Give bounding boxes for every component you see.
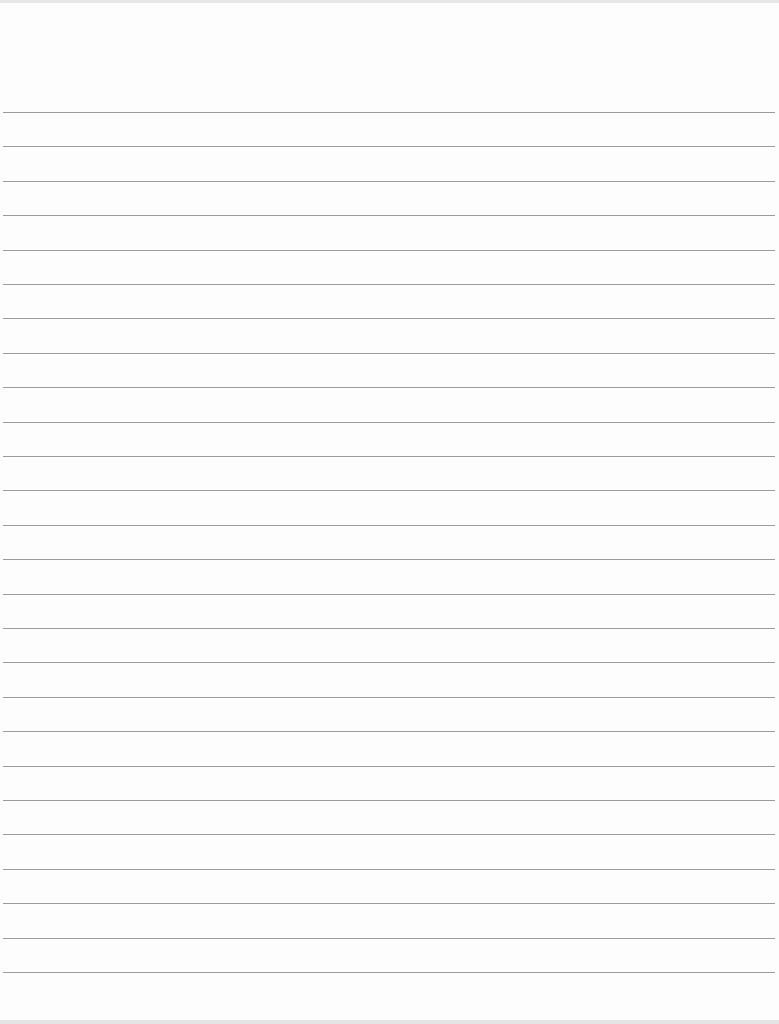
lined-paper-sheet <box>0 0 779 1024</box>
ruled-line <box>3 387 775 388</box>
ruled-line <box>3 181 775 182</box>
ruled-line <box>3 731 775 732</box>
ruled-line <box>3 456 775 457</box>
ruled-line <box>3 766 775 767</box>
ruled-line <box>3 869 775 870</box>
ruled-line <box>3 972 775 973</box>
ruled-line <box>3 662 775 663</box>
ruled-line <box>3 697 775 698</box>
ruled-line <box>3 938 775 939</box>
paper-bottom-edge <box>0 1020 779 1024</box>
ruled-line <box>3 834 775 835</box>
ruled-line <box>3 903 775 904</box>
ruled-line <box>3 284 775 285</box>
ruled-line <box>3 112 775 113</box>
ruled-line <box>3 594 775 595</box>
ruled-line <box>3 559 775 560</box>
ruled-line <box>3 146 775 147</box>
ruled-line <box>3 215 775 216</box>
paper-top-edge <box>0 0 779 3</box>
ruled-line <box>3 353 775 354</box>
ruled-line <box>3 422 775 423</box>
ruled-line <box>3 800 775 801</box>
ruled-line <box>3 318 775 319</box>
ruled-line <box>3 490 775 491</box>
ruled-line <box>3 525 775 526</box>
ruled-line <box>3 250 775 251</box>
ruled-line <box>3 628 775 629</box>
